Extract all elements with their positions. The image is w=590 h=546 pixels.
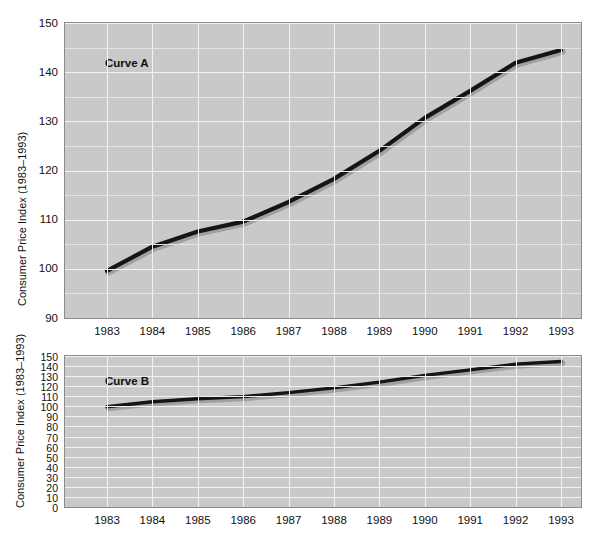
gridline-horizontal — [65, 507, 581, 508]
plot-area-curve-a: Curve A — [64, 22, 582, 319]
gridline-vertical — [243, 356, 244, 507]
x-tick-label: 1985 — [176, 325, 220, 337]
gridline-vertical — [470, 356, 471, 507]
y-tick-label: 150 — [28, 351, 58, 363]
gridline-horizontal — [65, 356, 581, 357]
gridline-horizontal — [65, 396, 581, 397]
x-tick-label: 1991 — [448, 325, 492, 337]
gridline-vertical — [289, 356, 290, 507]
x-tick-label: 1990 — [403, 514, 447, 526]
gridline-vertical — [152, 356, 153, 507]
gridline-vertical — [379, 356, 380, 507]
x-tick-label: 1991 — [448, 514, 492, 526]
x-tick-label: 1986 — [221, 325, 265, 337]
x-tick-label: 1989 — [357, 514, 401, 526]
gridline-horizontal-minor — [65, 244, 581, 245]
gridline-horizontal — [65, 386, 581, 387]
gridline-horizontal-minor — [65, 195, 581, 196]
gridline-horizontal-minor — [65, 293, 581, 294]
gridline-horizontal — [65, 318, 581, 319]
gridline-vertical — [334, 356, 335, 507]
gridline-horizontal-minor — [65, 48, 581, 49]
gridline-horizontal — [65, 416, 581, 417]
x-tick-label: 1990 — [403, 325, 447, 337]
gridline-horizontal — [65, 376, 581, 377]
gridline-horizontal — [65, 23, 581, 24]
x-tick-label: 1992 — [494, 514, 538, 526]
gridline-horizontal — [65, 366, 581, 367]
y-tick-label: 130 — [26, 115, 58, 127]
gridline-horizontal — [65, 426, 581, 427]
gridline-horizontal — [65, 497, 581, 498]
gridline-horizontal — [65, 477, 581, 478]
gridline-horizontal — [65, 72, 581, 73]
plot-area-curve-b: Curve B — [64, 355, 582, 508]
x-tick-label: 1989 — [357, 325, 401, 337]
x-tick-label: 1992 — [494, 325, 538, 337]
gridline-horizontal — [65, 220, 581, 221]
x-tick-label: 1983 — [85, 325, 129, 337]
x-tick-label: 1983 — [85, 514, 129, 526]
y-tick-label: 120 — [26, 164, 58, 176]
gridline-horizontal — [65, 447, 581, 448]
x-tick-label: 1993 — [539, 325, 583, 337]
x-tick-label: 1988 — [312, 514, 356, 526]
y-tick-label: 140 — [26, 66, 58, 78]
gridline-horizontal — [65, 121, 581, 122]
x-tick-label: 1988 — [312, 325, 356, 337]
y-tick-label: 90 — [26, 312, 58, 324]
y-tick-label: 150 — [26, 17, 58, 29]
gridline-horizontal — [65, 406, 581, 407]
y-axis-title-curve-b: Consumer Price Index (1983–1993) — [14, 334, 26, 508]
x-tick-label: 1987 — [267, 325, 311, 337]
y-tick-label: 100 — [26, 262, 58, 274]
x-tick-label: 1993 — [539, 514, 583, 526]
gridline-vertical — [516, 356, 517, 507]
gridline-horizontal — [65, 437, 581, 438]
gridline-vertical — [107, 356, 108, 507]
x-tick-label: 1984 — [130, 325, 174, 337]
gridline-vertical — [198, 356, 199, 507]
x-tick-label: 1985 — [176, 514, 220, 526]
cpi-dual-axis-figure: Consumer Price Index (1983–1993) 9010011… — [0, 0, 590, 546]
curve-b-line — [65, 356, 581, 507]
x-tick-label: 1984 — [130, 514, 174, 526]
gridline-horizontal — [65, 487, 581, 488]
x-tick-label: 1987 — [267, 514, 311, 526]
gridline-horizontal — [65, 269, 581, 270]
gridline-vertical — [561, 356, 562, 507]
gridline-horizontal — [65, 171, 581, 172]
gridline-horizontal-minor — [65, 97, 581, 98]
gridline-horizontal — [65, 457, 581, 458]
x-tick-label: 1986 — [221, 514, 265, 526]
gridline-horizontal-minor — [65, 146, 581, 147]
y-tick-label: 110 — [26, 213, 58, 225]
gridline-vertical — [425, 356, 426, 507]
gridline-horizontal — [65, 467, 581, 468]
